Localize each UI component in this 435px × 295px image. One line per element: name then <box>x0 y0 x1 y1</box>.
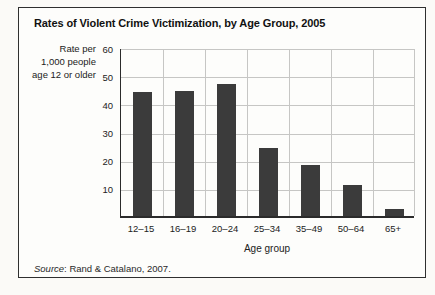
bar-16–19 <box>175 91 194 216</box>
y-tick-label: 60 <box>77 44 113 55</box>
y-axis-ticks: 605040302010 <box>77 49 113 218</box>
source-note: Source: Rand & Catalano, 2007. <box>34 263 171 274</box>
x-tick-label: 16–19 <box>170 223 196 234</box>
x-axis-title: Age group <box>120 243 414 254</box>
gridline-vertical <box>414 49 415 216</box>
y-tick-label: 50 <box>77 72 113 83</box>
gridline-horizontal <box>121 77 414 78</box>
gridline-horizontal <box>121 134 414 135</box>
chart-title: Rates of Violent Crime Victimization, by… <box>34 17 325 29</box>
gridline-vertical <box>205 49 206 216</box>
bar-35–49 <box>301 165 320 216</box>
x-tick-label: 65+ <box>385 223 401 234</box>
x-tick-label: 35–49 <box>296 223 322 234</box>
bar-25–34 <box>259 148 278 216</box>
x-tick-label: 25–34 <box>254 223 280 234</box>
gridline-horizontal <box>121 105 414 106</box>
gridline-vertical <box>247 49 248 216</box>
bar-65+ <box>385 209 404 216</box>
x-axis-ticks: 12–1516–1920–2425–3435–4950–6465+ <box>120 223 414 235</box>
source-text: : Rand & Catalano, 2007. <box>64 263 171 274</box>
source-label: Source <box>34 263 64 274</box>
bar-12–15 <box>133 92 152 216</box>
bar-20–24 <box>217 84 236 216</box>
plot-area <box>120 49 414 218</box>
figure-frame: Rates of Violent Crime Victimization, by… <box>18 7 426 278</box>
bar-50–64 <box>343 185 362 216</box>
gridline-vertical <box>163 49 164 216</box>
gridline-vertical <box>373 49 374 216</box>
y-tick-label: 30 <box>77 128 113 139</box>
y-tick-label: 10 <box>77 184 113 195</box>
gridline-vertical <box>289 49 290 216</box>
gridline-horizontal <box>121 49 414 50</box>
x-tick-label: 20–24 <box>212 223 238 234</box>
x-tick-label: 50–64 <box>338 223 364 234</box>
y-tick-label: 20 <box>77 156 113 167</box>
gridline-vertical <box>331 49 332 216</box>
x-tick-label: 12–15 <box>128 223 154 234</box>
y-tick-label: 40 <box>77 100 113 111</box>
